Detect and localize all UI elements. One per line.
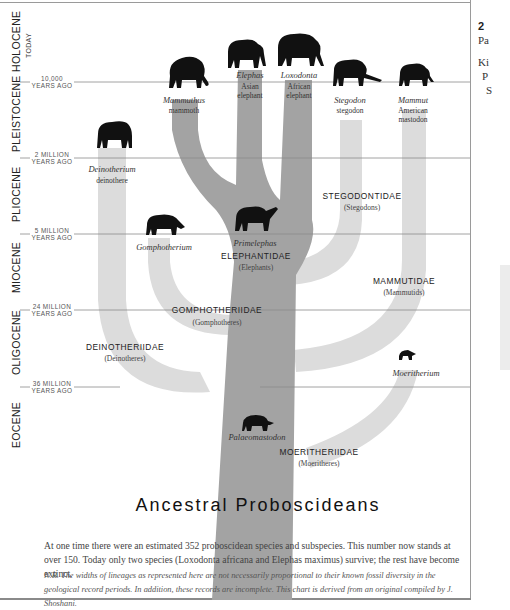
boundary-10000-unit: YEARS AGO — [32, 82, 73, 89]
common-american: American — [398, 106, 428, 115]
epoch-pleistocene: PLEISTOCENE — [10, 75, 22, 152]
family-deinotheriidae: DEINOTHERIIDAE — [86, 342, 164, 352]
family-stegodontidae: STEGODONTIDAE — [322, 191, 401, 201]
frame-right-border — [470, 0, 471, 598]
common-asian-elephant: elephant — [237, 91, 263, 100]
boundary-36m-value: 36 MILLION — [33, 380, 71, 387]
proboscidean-tree-chart: HOLOCENE TODAY PLEISTOCENE PLIOCENE MIOC… — [0, 0, 470, 610]
genus-primelephas: Primelephas — [233, 238, 278, 248]
family-elephantidae: ELEPHANTIDAE — [221, 251, 291, 261]
moeritherium-silhouette-icon — [399, 350, 416, 360]
common-mammoth: mammoth — [169, 106, 200, 115]
side-page-number: 2 — [478, 20, 484, 32]
epoch-labels: HOLOCENE TODAY PLEISTOCENE PLIOCENE MIOC… — [10, 11, 32, 448]
trunk-main — [172, 70, 313, 600]
african-elephant-silhouette-icon — [278, 34, 324, 66]
side-text-line-2: Ki — [478, 56, 489, 68]
family-mammutidae: MAMMUTIDAE — [373, 276, 435, 286]
genus-elephas: Elephas — [235, 70, 264, 80]
common-american-mastodon: mastodon — [398, 115, 427, 124]
common-stegodon: stegodon — [336, 106, 363, 115]
chart-title: Ancestral Proboscideans — [135, 495, 380, 515]
family-deinotheriidae-common: (Deinotheres) — [104, 354, 146, 363]
epoch-holocene-sub: TODAY — [25, 33, 32, 58]
genus-gomphotherium: Gomphotherium — [136, 242, 192, 252]
genus-stegodon: Stegodon — [334, 95, 366, 105]
boundary-24m-unit: YEARS AGO — [32, 310, 73, 317]
common-african-elephant: elephant — [286, 91, 312, 100]
boundary-36m-unit: YEARS AGO — [32, 387, 73, 394]
asian-elephant-silhouette-icon — [228, 40, 266, 69]
epoch-oligocene: OLIGOCENE — [10, 310, 22, 375]
elephantidae-trunk — [172, 70, 313, 600]
family-moeritheriidae-common: (Moeritheres) — [298, 459, 340, 468]
epoch-holocene: HOLOCENE — [10, 11, 22, 72]
side-text-line-4: S — [486, 84, 492, 96]
genus-mammuthus: Mammuthus — [162, 95, 206, 105]
boundary-5m-unit: YEARS AGO — [32, 234, 73, 241]
genus-mammut: Mammut — [397, 95, 429, 105]
genus-palaeomastodon: Palaeomastodon — [227, 432, 285, 442]
boundary-5m-value: 5 MILLION — [35, 227, 70, 234]
boundary-10000-value: 10,000 — [41, 75, 63, 82]
side-text-line-1: Pa — [478, 34, 489, 46]
footer-nb-text: N.B. The widths of lineages as represent… — [44, 569, 464, 610]
mastodon-silhouette-icon — [399, 64, 434, 87]
common-asian: Asian — [241, 82, 259, 91]
epoch-miocene: MIOCENE — [10, 242, 22, 293]
footer-nb: N.B. The widths of lineages as represent… — [44, 569, 464, 610]
gomphotherium-silhouette-icon — [146, 215, 185, 235]
boundary-2m-value: 2 MILLION — [35, 151, 70, 158]
side-image-placeholder — [500, 265, 510, 370]
family-gomphotheriidae-common: (Gomphotheres) — [192, 318, 242, 327]
deinotherium-silhouette-icon — [97, 121, 132, 148]
genus-loxodonta: Loxodonta — [280, 70, 317, 80]
common-deinothere: deinothere — [96, 176, 128, 185]
epoch-pliocene: PLIOCENE — [10, 167, 22, 223]
family-moeritheriidae: MOERITHERIIDAE — [279, 447, 358, 457]
mammoth-silhouette-icon — [169, 57, 209, 88]
genus-deinotherium: Deinotherium — [87, 164, 135, 174]
family-stegodontidae-common: (Stegodons) — [344, 203, 381, 212]
boundary-2m-unit: YEARS AGO — [32, 158, 73, 165]
common-african: African — [288, 82, 311, 91]
boundary-labels: 10,000 YEARS AGO 2 MILLION YEARS AGO 5 M… — [32, 75, 73, 394]
genus-moeritherium: Moeritherium — [391, 368, 439, 378]
side-text-line-3: P — [482, 70, 488, 82]
family-elephantidae-common: (Elephants) — [239, 263, 274, 272]
family-mammutidae-common: (Mammutids) — [383, 288, 425, 297]
family-gomphotheriidae: GOMPHOTHERIIDAE — [172, 305, 262, 315]
epoch-eocene: EOCENE — [10, 402, 22, 448]
boundary-24m-value: 24 MILLION — [33, 303, 71, 310]
